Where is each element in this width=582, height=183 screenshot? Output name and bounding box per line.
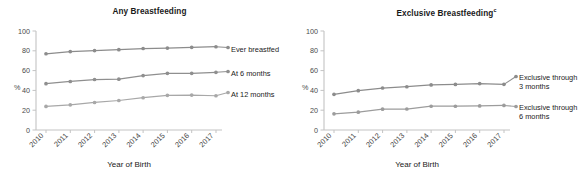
x-axis-title: Year of Birth: [324, 160, 510, 169]
series-data-point: [93, 101, 97, 105]
y-tick-label: 60: [310, 66, 318, 75]
y-tick-label: 100: [18, 27, 30, 36]
series-label-marker: [226, 91, 230, 95]
series-label-marker: [514, 75, 518, 79]
series-data-point: [166, 72, 170, 76]
x-tick-label: 2011: [52, 131, 70, 149]
series-data-point: [44, 82, 48, 86]
series-data-point: [68, 103, 72, 107]
x-tick-label: 2010: [27, 131, 45, 149]
series-label-at-6-months: At 6 months: [231, 69, 270, 78]
series-data-point: [44, 52, 48, 56]
data-series-group: [332, 75, 518, 116]
series-data-point: [166, 46, 170, 50]
y-tick-label: 20: [310, 106, 318, 115]
series-data-point: [454, 104, 458, 108]
x-axis-title: Year of Birth: [36, 160, 222, 169]
series-data-point: [190, 45, 194, 49]
y-tick-label: 0: [26, 126, 30, 135]
y-axis-ticks: 100 80 60 40 20 0: [18, 27, 36, 135]
series-leader-line: [504, 77, 516, 85]
y-tick-label: 100: [306, 27, 318, 36]
x-tick-label: 2011: [340, 131, 358, 149]
y-tick-label: 80: [310, 46, 318, 55]
y-tick-label: 80: [22, 46, 30, 55]
x-axis-tick-labels: 2010 2011 2012 2013 2014 2015 2016 2017: [315, 131, 503, 149]
series-label-marker: [226, 46, 230, 50]
x-tick-label: 2015: [149, 131, 167, 149]
series-data-point: [190, 93, 194, 97]
y-tick-label: 40: [310, 86, 318, 95]
x-tick-label: 2014: [125, 131, 143, 149]
series-data-point: [44, 105, 48, 109]
series-data-point: [454, 83, 458, 87]
x-tick-label: 2012: [364, 131, 382, 149]
x-tick-label: 2016: [173, 131, 191, 149]
series-data-point: [141, 47, 145, 51]
x-tick-label: 2017: [485, 131, 503, 149]
series-data-point: [68, 80, 72, 84]
series-data-point: [429, 104, 433, 108]
y-tick-label: 60: [22, 66, 30, 75]
x-tick-label: 2014: [413, 131, 431, 149]
data-series-group: [44, 45, 230, 108]
series-data-point: [141, 96, 145, 100]
series-label-exclusive-6-months: Exclusive through 6 months: [519, 103, 577, 121]
series-leader-line: [216, 93, 228, 96]
series-data-point: [68, 50, 72, 54]
series-data-point: [117, 48, 121, 52]
x-tick-label: 2013: [100, 131, 118, 149]
series-data-point: [478, 104, 482, 108]
y-tick-label: 0: [314, 126, 318, 135]
series-data-point: [356, 89, 360, 93]
series-data-point: [190, 72, 194, 76]
series-data-point: [381, 107, 385, 111]
series-data-point: [356, 110, 360, 114]
series-data-point: [332, 93, 336, 97]
series-data-point: [117, 99, 121, 103]
y-tick-label: 40: [22, 86, 30, 95]
series-label-at-12-months: At 12 months: [231, 90, 275, 99]
series-data-point: [478, 82, 482, 86]
series-data-point: [141, 74, 145, 78]
y-tick-label: 20: [22, 106, 30, 115]
x-axis-tick-labels: 2010 2011 2012 2013 2014 2015 2016 2017: [27, 131, 215, 149]
x-tick-label: 2012: [76, 131, 94, 149]
x-tick-label: 2017: [197, 131, 215, 149]
panel-exclusive-breastfeeding: Exclusive Breastfeedingc % 100 80 60 40 …: [291, 0, 582, 183]
series-line: [334, 84, 504, 95]
figure-breastfeeding-trends: Any Breastfeeding % 100 80 60 40 20 0: [0, 0, 582, 183]
x-tick-label: 2015: [437, 131, 455, 149]
series-data-point: [117, 77, 121, 81]
series-data-point: [332, 112, 336, 116]
series-data-point: [93, 49, 97, 53]
y-axis-ticks: 100 80 60 40 20 0: [306, 27, 324, 135]
series-label-marker: [226, 70, 230, 74]
series-data-point: [381, 86, 385, 90]
series-data-point: [93, 78, 97, 82]
x-tick-label: 2013: [388, 131, 406, 149]
series-data-point: [429, 83, 433, 87]
series-label-ever-breastfed: Ever breastfed: [231, 45, 279, 54]
series-data-point: [166, 94, 170, 98]
x-tick-label: 2016: [461, 131, 479, 149]
x-tick-label: 2010: [315, 131, 333, 149]
plot-area-exclusive-breastfeeding: 100 80 60 40 20 0 2010 2011 2012: [291, 0, 582, 183]
series-data-point: [405, 85, 409, 89]
series-label-marker: [514, 105, 518, 109]
panel-any-breastfeeding: Any Breastfeeding % 100 80 60 40 20 0: [0, 0, 291, 183]
series-label-exclusive-3-months: Exclusive through 3 months: [519, 73, 577, 91]
series-data-point: [405, 107, 409, 111]
